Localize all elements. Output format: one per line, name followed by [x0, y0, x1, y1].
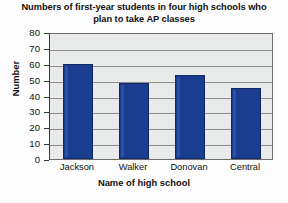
- y-axis-tick-label: 80: [29, 27, 40, 38]
- x-axis-tick-label: Jackson: [49, 162, 105, 172]
- y-axis-tick-label: 20: [29, 122, 40, 133]
- y-axis-tick-label: 70: [29, 43, 40, 54]
- bar-chart-figure: Numbers of first-year students in four h…: [0, 0, 288, 203]
- y-axis-tick-label: 50: [29, 75, 40, 86]
- bar-highlight: [121, 85, 124, 157]
- bar-highlight: [65, 66, 68, 157]
- y-axis-tick-label: 40: [29, 91, 40, 102]
- y-axis-tick-group: 80706050403020100: [0, 33, 49, 160]
- chart-title: Numbers of first-year students in four h…: [14, 2, 274, 25]
- x-axis-tick-group: JacksonWalkerDonovanCentral: [49, 162, 273, 175]
- x-axis-tick-label: Central: [217, 162, 273, 172]
- x-axis-tick-label: Walker: [105, 162, 161, 172]
- bar-highlight: [233, 90, 236, 157]
- y-axis-tick-label: 30: [29, 106, 40, 117]
- x-axis-label: Name of high school: [14, 177, 274, 188]
- y-axis-tick-label: 60: [29, 59, 40, 70]
- bar: [175, 75, 205, 159]
- y-axis-tick-label: 0: [35, 154, 40, 165]
- bar-highlight: [177, 77, 180, 157]
- bar: [119, 83, 149, 159]
- chart-title-line-1: Numbers of first-year students in four h…: [21, 2, 208, 12]
- plot-area: [49, 33, 273, 160]
- bar: [63, 64, 93, 159]
- y-axis-tick-label: 10: [29, 138, 40, 149]
- bar: [231, 88, 261, 159]
- x-axis-tick-label: Donovan: [161, 162, 217, 172]
- gridline: [50, 50, 272, 51]
- y-axis-tick-mark: [44, 160, 49, 161]
